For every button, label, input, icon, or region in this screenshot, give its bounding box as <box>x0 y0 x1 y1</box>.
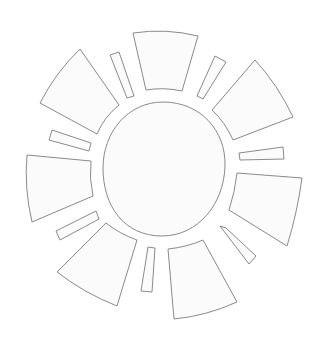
ray-upper-left-icon <box>40 49 119 134</box>
ray-right-icon <box>229 173 302 246</box>
small-ray-right-icon <box>239 147 284 160</box>
ray-upper-right-icon <box>212 60 293 140</box>
small-ray-top-left-icon <box>110 52 134 98</box>
small-ray-lower-right-icon <box>220 226 256 264</box>
ray-top-icon <box>133 31 198 91</box>
sun-core-icon <box>103 102 225 236</box>
small-ray-left-icon <box>49 130 91 151</box>
small-ray-bottom-icon <box>141 247 155 292</box>
ray-left-icon <box>26 155 93 222</box>
ray-bottom-icon <box>168 240 237 319</box>
small-ray-lower-left-icon <box>56 211 99 240</box>
sun-illustration <box>0 0 325 349</box>
small-ray-top-right-icon <box>197 56 226 99</box>
